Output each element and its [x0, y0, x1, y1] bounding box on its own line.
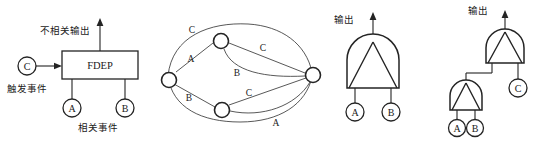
fdep-output-label: 不相关输出	[40, 25, 90, 36]
trigger-arrowhead	[54, 63, 62, 69]
graph-node-bottom	[215, 103, 230, 118]
nested-input-node-a-label: A	[453, 123, 461, 134]
dependent-node-b-label: B	[122, 103, 129, 114]
edge-label-b-lower-left: B	[186, 93, 192, 103]
graph-node-top	[214, 34, 229, 49]
graph-edge-bottom-right-curved	[230, 82, 310, 113]
edge-label-a-upper: A	[188, 54, 195, 64]
input-node-c-label: C	[515, 83, 522, 94]
edge-label-c-top: C	[189, 25, 195, 35]
fdep-output-arrowhead	[97, 18, 104, 26]
trigger-event-label: 触发事件	[7, 83, 47, 94]
fault-tree-figure: 不相关输出 FDEP C 触发事件 A B 相关事件	[0, 0, 543, 142]
graph-edge-left-top	[176, 43, 213, 72]
fdep-panel: 不相关输出 FDEP C 触发事件 A B 相关事件	[7, 18, 138, 133]
graph-edge-left-bottom	[174, 84, 215, 107]
trigger-node-label: C	[24, 61, 31, 72]
and-gate-output-arrowhead	[370, 12, 377, 20]
fdep-box-label: FDEP	[87, 60, 113, 71]
and-gate-output-label: 输出	[334, 14, 354, 25]
input-node-a-label: A	[351, 107, 359, 118]
edge-label-c-upper-right: C	[260, 43, 266, 53]
nested-input-node-b-label: B	[472, 123, 479, 134]
graph-edge-top-right-straight	[229, 43, 305, 73]
nested-gate-panel: 输出 C A B	[449, 5, 528, 137]
graph-panel: C A C B B C A	[162, 24, 321, 128]
edge-label-a-bottom: A	[273, 118, 280, 128]
nested-upper-gate-body	[486, 29, 524, 63]
graph-node-right	[306, 68, 321, 83]
edge-label-c-lower: C	[246, 88, 252, 98]
input-node-b-label: B	[388, 107, 395, 118]
dependent-event-label: 相关事件	[78, 122, 118, 133]
and-gate-panel: 输出 A B	[334, 12, 400, 121]
graph-node-left	[162, 73, 177, 88]
nested-gate-output-arrowhead	[502, 10, 509, 18]
edge-label-b-middle: B	[234, 68, 240, 78]
graph-edge-bottom-right-straight	[229, 78, 306, 105]
nested-gate-output-label: 输出	[468, 5, 488, 16]
dependent-node-a-label: A	[68, 103, 76, 114]
